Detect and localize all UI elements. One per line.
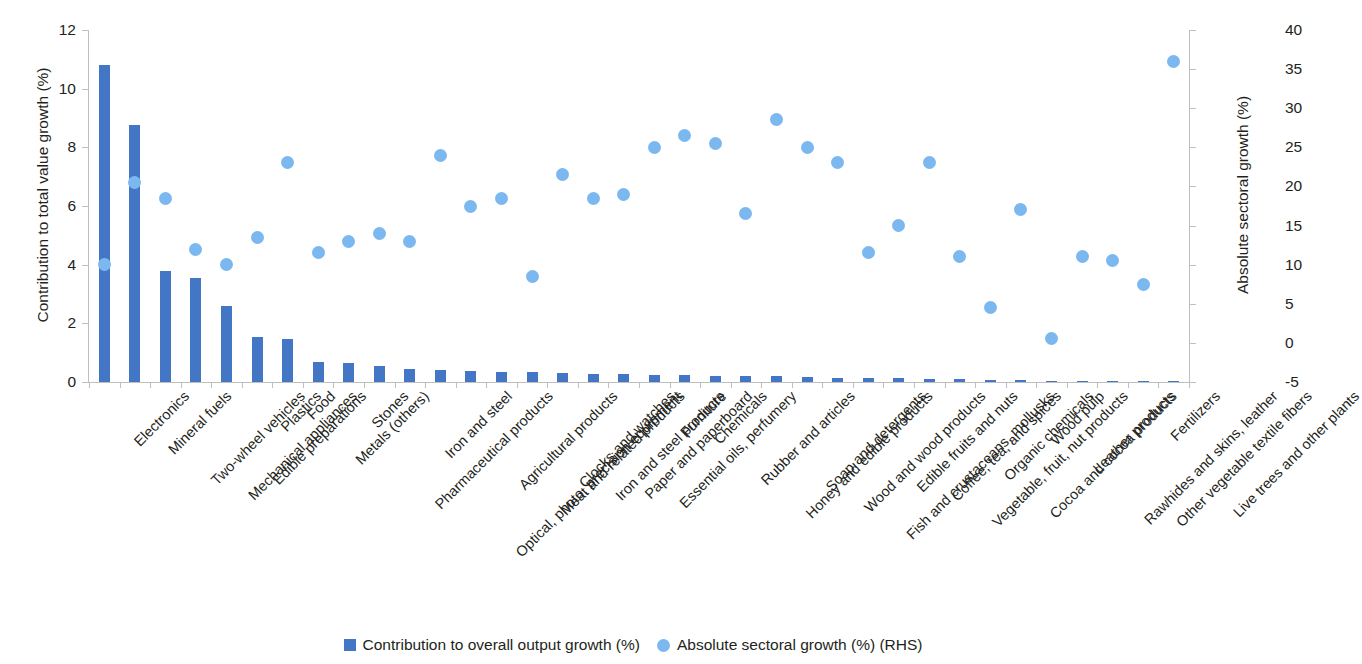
x-axis-tick — [608, 382, 609, 388]
x-axis-label: Iron and steel products — [612, 388, 728, 504]
x-axis-tick — [181, 382, 182, 388]
y-axis-title-right: Absolute sectoral growth (%) — [1234, 30, 1252, 360]
legend-label-bars: Contribution to overall output growth (%… — [363, 636, 640, 654]
scatter-point — [587, 192, 600, 205]
scatter-point — [1137, 278, 1150, 291]
bar — [252, 337, 263, 382]
scatter-point — [1014, 203, 1027, 216]
x-axis-label: Two-wheel vehicles — [208, 388, 308, 488]
x-axis-tick — [364, 382, 365, 388]
scatter-point — [464, 200, 477, 213]
bar — [1138, 381, 1149, 382]
y-axis-right-tick — [1190, 382, 1196, 383]
bar — [649, 375, 660, 382]
scatter-point — [98, 258, 111, 271]
x-axis-tick — [120, 382, 121, 388]
x-axis-tick — [211, 382, 212, 388]
scatter-point — [801, 141, 814, 154]
x-axis-tick — [883, 382, 884, 388]
x-axis-tick — [761, 382, 762, 388]
y-axis-left-tick — [82, 89, 88, 90]
bar — [618, 374, 629, 382]
y-axis-right-tick-label: 0 — [1285, 335, 1345, 351]
x-axis-tick — [517, 382, 518, 388]
x-axis-label: Fertilizers — [1168, 388, 1224, 444]
y-axis-right-tick — [1190, 226, 1196, 227]
scatter-point — [617, 188, 630, 201]
y-axis-left-tick — [82, 206, 88, 207]
x-axis-label: Fish and crustaceans, mollusks — [903, 388, 1057, 542]
x-axis-label: Electronics — [131, 388, 192, 449]
y-axis-right-tick-label: 10 — [1285, 257, 1345, 273]
y-axis-right-tick-label: 15 — [1285, 218, 1345, 234]
y-axis-right-tick — [1190, 30, 1196, 31]
scatter-point — [556, 168, 569, 181]
bar — [1077, 381, 1088, 382]
bar — [985, 380, 996, 382]
bar — [802, 377, 813, 382]
scatter-point — [189, 243, 202, 256]
scatter-point — [342, 235, 355, 248]
y-axis-left-tick — [82, 382, 88, 383]
x-axis-label: Vegetable, fruit, nut products — [989, 388, 1131, 530]
y-axis-left-tick-label: 0 — [16, 374, 76, 390]
y-axis-right-line — [1189, 30, 1190, 383]
y-axis-left-tick-label: 12 — [16, 22, 76, 38]
y-axis-left-tick-label: 2 — [16, 315, 76, 331]
bar — [221, 306, 232, 382]
x-axis-tick — [670, 382, 671, 388]
x-axis-tick — [975, 382, 976, 388]
x-axis-tick — [89, 382, 90, 388]
scatter-point — [495, 192, 508, 205]
x-axis-label: Plastics — [278, 388, 325, 435]
x-axis-label: Furniture — [677, 388, 729, 440]
bar — [129, 125, 140, 382]
bar — [1168, 381, 1179, 382]
scatter-point — [923, 156, 936, 169]
x-axis-label: Live trees and other plants — [1230, 388, 1362, 520]
x-axis-label: Coffee, tea, and spices — [948, 388, 1064, 504]
x-axis-label: Cocoa and cocoa products — [1047, 388, 1180, 521]
scatter-point — [434, 149, 447, 162]
bar — [496, 372, 507, 382]
bar — [832, 378, 843, 382]
y-axis-right-tick-label: 5 — [1285, 296, 1345, 312]
x-axis-tick — [486, 382, 487, 388]
scatter-point — [709, 137, 722, 150]
x-axis-label: Leather products — [1089, 388, 1177, 476]
x-axis-label: Food — [303, 388, 338, 423]
x-axis-label: Pharmaceutical products — [432, 388, 556, 512]
x-axis-label: Honey and edible products — [802, 388, 935, 521]
bar — [557, 373, 568, 382]
x-axis-label: Edible preparations — [269, 388, 369, 488]
y-axis-left-tick — [82, 30, 88, 31]
x-axis-label: Rawhides and skins, leather — [1141, 388, 1281, 528]
x-axis-tick — [456, 382, 457, 388]
scatter-point — [892, 219, 905, 232]
scatter-point — [403, 235, 416, 248]
y-axis-left-tick-label: 10 — [16, 81, 76, 97]
x-axis-tick — [425, 382, 426, 388]
x-axis-tick — [150, 382, 151, 388]
y-axis-right-tick-label: -5 — [1285, 374, 1345, 390]
bar — [343, 363, 354, 382]
x-axis-tick — [578, 382, 579, 388]
x-axis-tick — [853, 382, 854, 388]
scatter-point — [1167, 55, 1180, 68]
x-axis-tick — [1128, 382, 1129, 388]
y-axis-right-tick-label: 30 — [1285, 100, 1345, 116]
y-axis-right-tick-label: 20 — [1285, 178, 1345, 194]
legend-label-dots: Absolute sectoral growth (%) (RHS) — [677, 636, 923, 654]
bar — [313, 362, 324, 382]
bar — [588, 374, 599, 383]
x-axis-label: Rubber and articles — [758, 388, 858, 488]
scatter-point — [648, 141, 661, 154]
x-axis-tick — [303, 382, 304, 388]
scatter-point — [1045, 332, 1058, 345]
bar — [954, 379, 965, 382]
legend-swatch-square-icon — [344, 639, 356, 651]
bar — [527, 372, 538, 382]
y-axis-right-tick — [1190, 108, 1196, 109]
x-axis-tick — [1006, 382, 1007, 388]
